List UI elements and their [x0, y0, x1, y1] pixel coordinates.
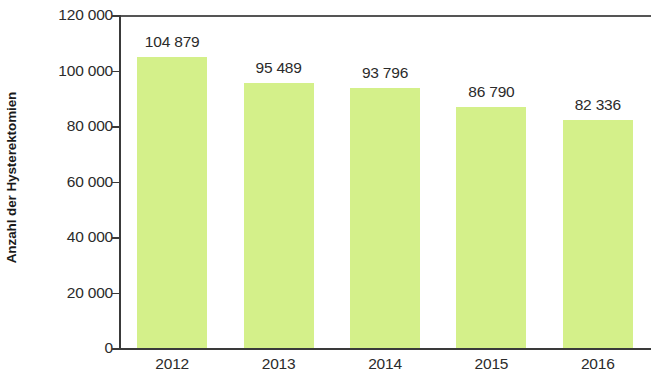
- bar: [137, 57, 207, 348]
- bar-value-label: 93 796: [330, 64, 440, 82]
- y-axis-line: [119, 15, 121, 348]
- x-axis-tick-label: 2016: [543, 355, 653, 373]
- y-axis-tick-label: 120 000: [21, 6, 113, 24]
- y-axis-tick-labels: 020 00040 00060 00080 000100 000120 000: [17, 0, 113, 381]
- y-axis-tick-label: 100 000: [21, 62, 113, 80]
- y-axis-tick-mark: [112, 71, 119, 73]
- bar: [244, 83, 314, 348]
- bar: [563, 120, 633, 348]
- y-axis-tick-mark: [112, 237, 119, 239]
- bar-chart: Anzahl der Hysterektomien 020 00040 0006…: [0, 0, 656, 381]
- x-axis-tick-label: 2014: [330, 355, 440, 373]
- bar-value-label: 86 790: [436, 83, 546, 101]
- y-axis-tick-label: 20 000: [21, 284, 113, 302]
- x-axis-tick-label: 2015: [436, 355, 546, 373]
- y-axis-tick-mark: [112, 15, 119, 17]
- y-axis-tick-label: 80 000: [21, 117, 113, 135]
- y-axis-tick-label: 40 000: [21, 228, 113, 246]
- bar-value-label: 82 336: [543, 96, 653, 114]
- bar-value-label: 95 489: [224, 59, 334, 77]
- bar: [350, 88, 420, 348]
- plot-top-border: [119, 15, 651, 17]
- x-axis-tick-label: 2012: [117, 355, 227, 373]
- y-axis-tick-label: 60 000: [21, 173, 113, 191]
- y-axis-tick-mark: [112, 182, 119, 184]
- y-axis-tick-label: 0: [21, 339, 113, 357]
- y-axis-tick-mark: [112, 126, 119, 128]
- y-axis-tick-mark: [112, 293, 119, 295]
- bar: [456, 107, 526, 348]
- y-axis-tick-mark: [112, 348, 119, 350]
- bar-value-label: 104 879: [117, 33, 227, 51]
- x-axis-tick-label: 2013: [224, 355, 334, 373]
- x-axis-line: [119, 348, 651, 350]
